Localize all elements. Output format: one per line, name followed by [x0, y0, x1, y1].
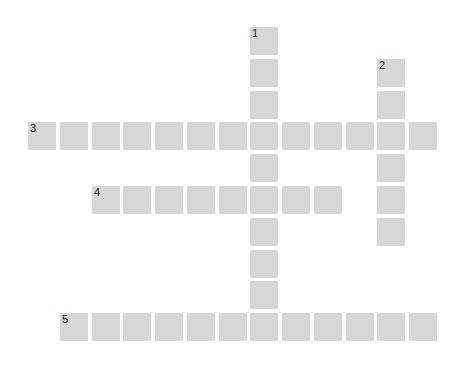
- crossword-cell[interactable]: [123, 122, 151, 150]
- crossword-cell[interactable]: [377, 122, 405, 150]
- crossword-cell[interactable]: 2: [377, 59, 405, 87]
- crossword-cell[interactable]: 1: [250, 27, 278, 55]
- crossword-cell[interactable]: [346, 122, 374, 150]
- crossword-cell[interactable]: [282, 186, 310, 214]
- crossword-cell[interactable]: [377, 186, 405, 214]
- crossword-cell[interactable]: [377, 313, 405, 341]
- crossword-cell[interactable]: [377, 91, 405, 119]
- crossword-cell[interactable]: [250, 281, 278, 309]
- crossword-cell[interactable]: [282, 313, 310, 341]
- crossword-cell[interactable]: 4: [92, 186, 120, 214]
- crossword-cell[interactable]: [250, 154, 278, 182]
- clue-number: 4: [94, 186, 100, 198]
- crossword-cell[interactable]: [219, 313, 247, 341]
- crossword-cell[interactable]: [155, 313, 183, 341]
- crossword-cell[interactable]: [409, 122, 437, 150]
- clue-number: 1: [252, 27, 258, 39]
- crossword-cell[interactable]: [219, 122, 247, 150]
- crossword-cell[interactable]: [377, 218, 405, 246]
- clue-number: 5: [62, 313, 68, 325]
- crossword-cell[interactable]: [92, 122, 120, 150]
- crossword-cell[interactable]: [250, 59, 278, 87]
- crossword-cell[interactable]: [187, 122, 215, 150]
- crossword-cell[interactable]: [314, 186, 342, 214]
- crossword-cell[interactable]: [250, 250, 278, 278]
- crossword-cell[interactable]: [187, 313, 215, 341]
- crossword-cell[interactable]: [250, 218, 278, 246]
- crossword-cell[interactable]: [409, 313, 437, 341]
- crossword-cell[interactable]: [282, 122, 310, 150]
- crossword-cell[interactable]: [187, 186, 215, 214]
- crossword-cell[interactable]: [155, 122, 183, 150]
- crossword-cell[interactable]: [250, 91, 278, 119]
- clue-number: 3: [30, 122, 36, 134]
- crossword-cell[interactable]: 3: [28, 122, 56, 150]
- crossword-cell[interactable]: [219, 186, 247, 214]
- crossword-grid: 12345: [0, 0, 462, 366]
- crossword-cell[interactable]: [123, 313, 151, 341]
- clue-number: 2: [379, 59, 385, 71]
- crossword-cell[interactable]: [250, 313, 278, 341]
- crossword-cell[interactable]: [377, 154, 405, 182]
- crossword-cell[interactable]: [92, 313, 120, 341]
- crossword-cell[interactable]: [60, 122, 88, 150]
- crossword-cell[interactable]: [346, 313, 374, 341]
- crossword-cell[interactable]: [155, 186, 183, 214]
- crossword-cell[interactable]: [123, 186, 151, 214]
- crossword-cell[interactable]: [314, 313, 342, 341]
- crossword-cell[interactable]: [250, 186, 278, 214]
- crossword-cell[interactable]: [250, 122, 278, 150]
- crossword-cell[interactable]: [314, 122, 342, 150]
- crossword-cell[interactable]: 5: [60, 313, 88, 341]
